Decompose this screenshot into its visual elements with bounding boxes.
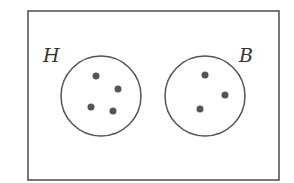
set-h-label: H	[42, 44, 60, 66]
element-dot	[110, 108, 117, 115]
element-dot	[115, 86, 122, 93]
universe-rectangle	[28, 11, 279, 180]
set-b-label: B	[238, 44, 253, 66]
element-dot	[202, 72, 209, 79]
set-h-circle	[61, 56, 141, 136]
element-dot	[197, 106, 204, 113]
set-b: B	[165, 44, 253, 136]
venn-diagram: H B	[0, 0, 294, 183]
element-dot	[88, 104, 95, 111]
element-dot	[222, 92, 229, 99]
set-b-circle	[165, 56, 245, 136]
element-dot	[93, 73, 100, 80]
set-h: H	[42, 44, 141, 136]
